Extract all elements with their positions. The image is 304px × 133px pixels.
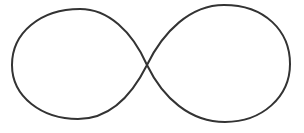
figure-canvas: Infinity symbol (lemniscate) A black out… bbox=[0, 0, 304, 133]
infinity-symbol-svg: Infinity symbol (lemniscate) A black out… bbox=[0, 0, 304, 133]
